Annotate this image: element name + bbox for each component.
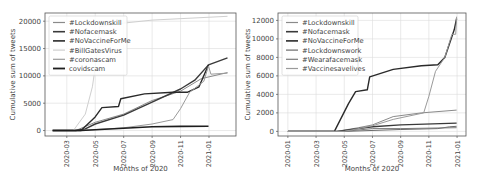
legend-label: #coronascam	[69, 56, 116, 64]
y-tick-label: 0	[270, 128, 274, 136]
y-tick-label: 5000	[23, 100, 41, 108]
x-tick-label: 2020-07	[120, 140, 128, 167]
legend-label: #Wearafacemask	[302, 56, 362, 64]
right-chart: 0200040006000800010000120002020-012020-0…	[239, 0, 478, 179]
left-chart: 050001000015000200002020-032020-052020-0…	[0, 0, 239, 179]
x-tick-label: 2020-07	[369, 140, 377, 167]
x-tick-label: 2020-03	[63, 140, 71, 167]
legend-label: #BillGatesVirus	[69, 47, 122, 55]
y-axis-label: Cumulative sum of tweets	[9, 28, 17, 120]
x-tick-label: 2020-09	[149, 140, 157, 167]
y-tick-label: 8000	[256, 54, 274, 62]
x-axis-label: Months of 2020	[113, 165, 168, 173]
legend-label: #Lockdownswork	[302, 47, 362, 55]
legend-label: covidscam	[69, 65, 106, 73]
y-tick-label: 4000	[256, 91, 274, 99]
x-tick-label: 2020-09	[397, 140, 405, 167]
y-tick-label: 20000	[19, 18, 41, 26]
x-axis-label: Months of 2020	[345, 165, 400, 173]
y-tick-label: 6000	[256, 72, 274, 80]
legend-label: #NoVaccineForMe	[69, 37, 131, 45]
x-tick-label: 2020-11	[177, 140, 185, 167]
legend-label: #NoVaccineForMe	[302, 37, 364, 45]
x-tick-label: 2021-01	[454, 140, 462, 167]
legend-label: #Nofacemask	[302, 28, 350, 36]
x-tick-label: 2020-05	[92, 140, 100, 167]
legend-label: #Lockdownskill	[69, 19, 122, 27]
legend-label: #Vaccinesavelives	[302, 65, 366, 73]
legend-label: #Lockdownskill	[302, 19, 355, 27]
x-tick-label: 2020-01	[284, 140, 292, 167]
y-tick-label: 10000	[19, 72, 41, 80]
legend-label: #Nofacemask	[69, 28, 117, 36]
y-tick-label: 10000	[252, 35, 274, 43]
x-tick-label: 2021-01	[205, 140, 213, 167]
x-tick-label: 2020-03	[313, 140, 321, 167]
y-tick-label: 0	[37, 127, 41, 135]
x-tick-label: 2020-05	[341, 140, 349, 167]
y-axis-label: Cumulative sum of tweets	[244, 28, 252, 120]
y-tick-label: 15000	[19, 45, 41, 53]
x-tick-label: 2020-11	[425, 140, 433, 167]
y-tick-label: 12000	[252, 17, 274, 25]
y-tick-label: 2000	[256, 109, 274, 117]
